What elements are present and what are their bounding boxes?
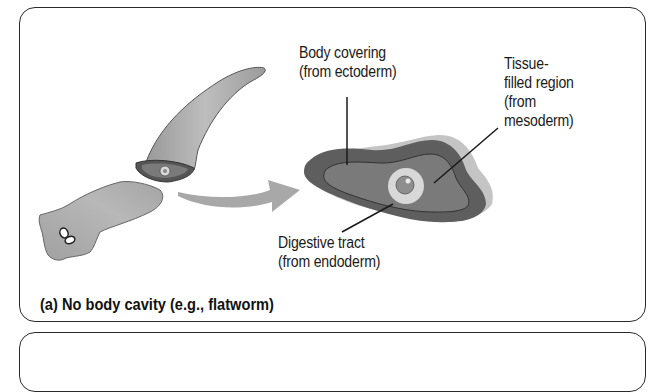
panel-a-caption: (a) No body cavity (e.g., flatworm) [40,295,274,315]
worm-anterior-piece [39,181,163,260]
curved-arrow-icon [178,180,300,212]
cross-section [304,135,493,222]
digestive-lumen [396,176,414,194]
label-text: Tissue- [504,54,574,73]
label-text: mesoderm) [504,111,574,130]
label-text: (from ectoderm) [299,62,397,81]
label-text: (from [504,92,574,111]
label-text: Digestive tract [278,233,380,252]
label-digestive-tract: Digestive tract (from endoderm) [278,233,380,271]
label-tissue-filled-region: Tissue- filled region (from mesoderm) [504,54,574,130]
label-body-covering: Body covering (from ectoderm) [299,43,397,81]
label-text: filled region [504,73,574,92]
label-text: Body covering [299,43,397,62]
label-text: (from endoderm) [278,252,380,271]
worm-posterior-piece [136,67,265,182]
leader-line-digestive [342,204,393,232]
